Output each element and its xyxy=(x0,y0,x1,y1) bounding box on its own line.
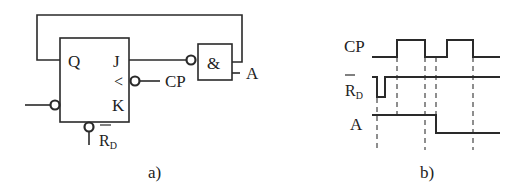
signal-label-a: A xyxy=(350,115,363,134)
rd-label: RD xyxy=(99,132,117,151)
caption-b: b) xyxy=(420,163,434,182)
reset-inversion-bubble xyxy=(85,123,94,132)
k-input-inversion-bubble xyxy=(51,101,60,110)
signal-label-rd: RD xyxy=(345,82,363,101)
timing-labels: CP RD A b) xyxy=(344,37,434,182)
pin-j-label: J xyxy=(113,52,120,71)
and-symbol-label: & xyxy=(207,54,220,73)
timing-guides xyxy=(377,57,473,150)
pin-clk-label: < xyxy=(114,73,123,90)
cp-label: CP xyxy=(165,72,186,91)
pin-q-label: Q xyxy=(68,52,80,71)
circuit-labels: Q J < K & CP A RD a) xyxy=(68,52,259,182)
signal-label-cp: CP xyxy=(344,37,365,56)
clock-inversion-bubble xyxy=(131,77,140,86)
circuit-diagram xyxy=(25,15,242,145)
caption-a: a) xyxy=(148,163,161,182)
pin-k-label: K xyxy=(112,96,125,115)
cp-waveform xyxy=(372,40,500,57)
a-label: A xyxy=(246,64,259,83)
timing-diagram xyxy=(345,40,500,150)
a-waveform xyxy=(372,115,500,133)
figure: Q J < K & CP A RD a) CP RD A b) xyxy=(0,0,524,192)
and-input-inversion-bubble xyxy=(187,56,196,65)
